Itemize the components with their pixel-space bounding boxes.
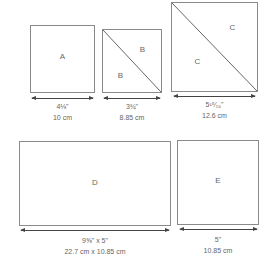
piece-d-rectangle: D	[19, 141, 171, 226]
piece-b-square: B B	[102, 29, 162, 93]
piece-e-dimension-arrow	[180, 229, 257, 230]
piece-c-diagonal	[172, 3, 257, 91]
piece-d-dimension-arrow	[21, 230, 169, 231]
piece-d-dimensions: 9⅝" x 5" 22.7 cm x 10.85 cm	[19, 235, 171, 257]
piece-c-dimensions: 5¹⁵⁄₁₆" 12.6 cm	[171, 99, 258, 121]
piece-a-dimension-arrow	[32, 98, 93, 99]
piece-d-label: D	[92, 177, 98, 186]
piece-c-dimension-arrow	[174, 96, 255, 97]
piece-d-metric: 22.7 cm x 10.85 cm	[19, 246, 171, 257]
piece-e-dimensions: 5" 10.85 cm	[177, 234, 259, 256]
piece-c-label-bottom: C	[195, 57, 201, 66]
piece-a-dimensions: 4⅛" 10 cm	[30, 101, 95, 123]
piece-e-square: E	[177, 140, 259, 225]
piece-e-metric: 10.85 cm	[177, 245, 259, 256]
piece-b-dimension-arrow	[104, 98, 160, 99]
piece-c-square: C C	[171, 2, 258, 92]
piece-a-imperial: 4⅛"	[30, 101, 95, 112]
piece-b-imperial: 3¾"	[102, 101, 162, 112]
piece-d-imperial: 9⅝" x 5"	[19, 235, 171, 246]
piece-c-label-top: C	[229, 22, 235, 31]
piece-b-metric: 8.85 cm	[102, 112, 162, 123]
piece-c-imperial: 5¹⁵⁄₁₆"	[171, 99, 258, 110]
piece-a-square: A	[30, 25, 95, 93]
piece-b-dimensions: 3¾" 8.85 cm	[102, 101, 162, 123]
piece-a-label: A	[60, 52, 65, 61]
piece-a-metric: 10 cm	[30, 112, 95, 123]
piece-e-label: E	[215, 176, 220, 185]
piece-c-metric: 12.6 cm	[171, 110, 258, 121]
piece-b-label-top: B	[140, 44, 145, 53]
piece-b-label-bottom: B	[118, 71, 123, 80]
piece-e-imperial: 5"	[177, 234, 259, 245]
piece-b-diagonal	[103, 30, 161, 92]
